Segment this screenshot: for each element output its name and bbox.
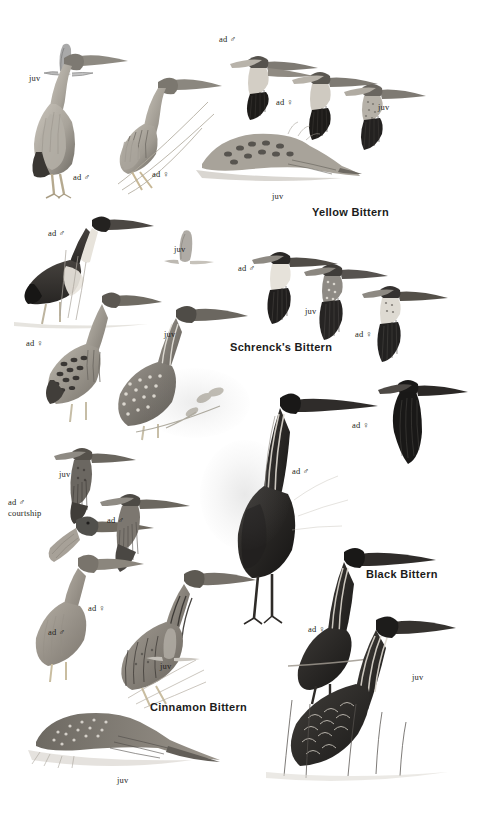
black-bittern-adult-female-flight-figure	[376, 370, 480, 470]
plumage-label-sb-ad-m-perch: ad ♂	[48, 229, 65, 239]
plumage-label-bb-juv-perch: juv	[412, 673, 423, 683]
plumage-label-cb-juv-fly: juv	[59, 470, 70, 480]
plumage-label-cb-ad-m-courtship: ad ♂courtship	[8, 497, 41, 518]
plumage-label-sb-juv-fly: juv	[305, 307, 316, 317]
plumage-label-yb-ad-f-fly: ad ♀	[276, 98, 293, 108]
plumage-label-yb-ad-f-perch: ad ♀	[152, 170, 169, 180]
plumage-label-bb-ad-m-perch: ad ♂	[292, 467, 309, 477]
plumage-label-cb-juv-crouch: juv	[117, 776, 128, 786]
cinnamon-bittern-juv-crouching-figure	[22, 706, 222, 776]
schrencks-bittern-juv-figure	[100, 300, 250, 440]
species-name-black: Black Bittern	[366, 568, 438, 580]
plumage-label-yb-ad-m-perch: ad ♂	[73, 173, 90, 183]
plumage-label-yb-juv-crouch: juv	[272, 192, 283, 202]
plumage-label-sb-ad-f-perch: ad ♀	[26, 339, 43, 349]
plumage-label-cb-ad-m-perch: ad ♂	[48, 628, 65, 638]
plumage-label-sb-ad-f-fly: ad ♀	[355, 330, 372, 340]
plumage-label-bb-ad-f-fly: ad ♀	[352, 421, 369, 431]
black-bittern-juv-figure	[258, 600, 458, 780]
plumage-label-bb-ad-f-perch: ad ♀	[308, 625, 325, 635]
plumage-label-cb-ad-m-fly: ad ♂	[107, 516, 124, 526]
plumage-label-cb-juv-small: juv	[160, 662, 171, 672]
plumage-label-cb-ad-f-perch: ad ♀	[88, 604, 105, 614]
species-name-yellow: Yellow Bittern	[312, 206, 389, 218]
species-name-cinnamon: Cinnamon Bittern	[150, 701, 247, 713]
plumage-label-sb-juv-fly-small: juv	[174, 245, 185, 255]
plumage-label-sb-juv-perch: juv	[164, 330, 175, 340]
species-name-schrenck: Schrenck's Bittern	[230, 341, 332, 353]
cinnamon-bittern-juv-small-figure	[142, 625, 202, 673]
plumage-label-yb-juv-fly-right: juv	[378, 103, 389, 113]
yellow-bittern-juv-crouching-figure	[192, 120, 362, 186]
schrencks-bittern-juv-flight-small-figure	[160, 226, 218, 274]
bird-plate: juvad ♂ad ♀ad ♂ad ♀juvjuvad ♂juvad ♀juva…	[0, 0, 486, 815]
schrencks-bittern-adult-female-flight-figure	[362, 272, 462, 368]
plumage-label-yb-ad-m-fly: ad ♂	[219, 35, 236, 45]
plumage-label-yb-juv-fly-left: juv	[29, 74, 40, 84]
plumage-label-sb-ad-m-fly: ad ♂	[238, 264, 255, 274]
